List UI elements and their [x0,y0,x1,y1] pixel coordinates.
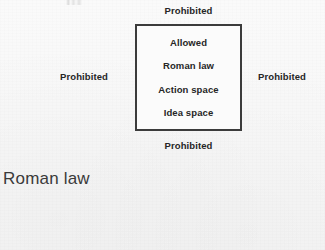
box-line-allowed: Allowed [170,38,207,48]
prohibited-label-top: Prohibited [0,6,325,16]
box-line-action-space: Action space [158,85,218,95]
diagram-page: Prohibited Prohibited Prohibited Prohibi… [0,0,325,250]
caption-roman-law: Roman law [3,170,90,189]
cropped-text-artifact-icon [66,0,84,5]
allowed-region-box: Allowed Roman law Action space Idea spac… [135,24,242,131]
box-line-idea-space: Idea space [164,108,214,118]
prohibited-label-right: Prohibited [258,72,306,82]
prohibited-label-bottom: Prohibited [0,141,325,151]
prohibited-label-left: Prohibited [60,72,108,82]
box-line-roman-law: Roman law [163,61,214,71]
